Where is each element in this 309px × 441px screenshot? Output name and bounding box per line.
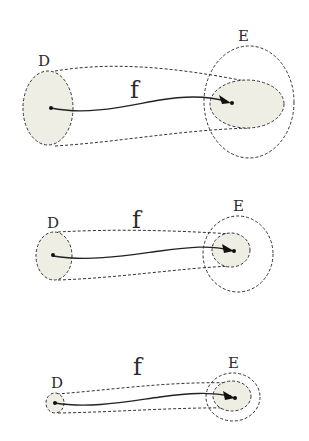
- image-point: [233, 396, 237, 400]
- domain-label: D: [38, 52, 50, 70]
- domain-label: D: [47, 214, 59, 232]
- function-mapping-diagram: D E f D E f D E f: [0, 0, 309, 441]
- image-tube-top: [57, 383, 232, 394]
- image-tube-top: [58, 230, 232, 234]
- codomain-label: E: [228, 354, 239, 372]
- image-set: [210, 80, 284, 128]
- map-label: f: [132, 206, 143, 234]
- domain-point: [53, 401, 57, 405]
- domain-label: D: [51, 374, 63, 392]
- map-label: f: [133, 353, 144, 381]
- map-curve: [51, 97, 228, 111]
- panel-3: D E f: [46, 353, 260, 421]
- codomain-label: E: [238, 27, 249, 45]
- panel-1: D E f: [23, 27, 294, 158]
- map-curve: [55, 393, 231, 405]
- domain-point: [51, 253, 55, 257]
- image-set: [213, 381, 251, 411]
- image-tube-bottom: [58, 408, 232, 413]
- image-point: [232, 249, 236, 253]
- image-tube-bottom: [55, 128, 250, 146]
- domain-set-d: [23, 71, 73, 145]
- panel-2: D E f: [36, 197, 273, 292]
- image-point: [230, 101, 234, 105]
- image-tube-top: [55, 66, 250, 82]
- domain-point: [49, 106, 53, 110]
- codomain-label: E: [233, 197, 244, 215]
- map-label: f: [130, 76, 141, 104]
